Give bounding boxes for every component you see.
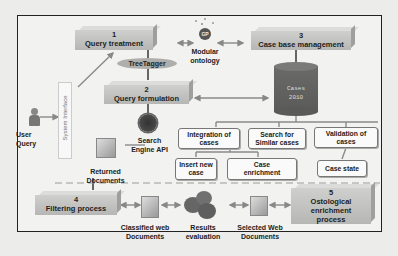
- step-4-filtering-process: 4 Filtering process: [35, 195, 117, 215]
- search-similar-cases-box: Search forSimilar cases: [248, 128, 306, 149]
- step-number: 5: [291, 188, 371, 197]
- selected-documents-icon: [250, 196, 268, 216]
- results-line1: Results: [178, 223, 228, 232]
- user-line1: User: [16, 130, 46, 139]
- step5-line2: enrichment: [291, 206, 371, 215]
- user-query-label: User Query: [16, 130, 46, 148]
- selected-line2: Documents: [230, 232, 290, 241]
- search-line2: Engine API: [122, 145, 177, 154]
- step-5-ontological-enrichment: 5 Ostological enrichment process: [291, 188, 371, 224]
- returned-documents-icon: [96, 138, 116, 158]
- search-engine-gear-icon: [139, 114, 157, 132]
- user-icon: [29, 108, 39, 126]
- ontology-line1: Modular: [180, 47, 230, 56]
- ontology-badge: GP: [199, 28, 211, 40]
- step-label: Filtering process: [46, 204, 106, 213]
- classified-documents-label: Classified web Documents: [115, 223, 175, 241]
- enrichment-line2: enrichment: [244, 169, 281, 177]
- results-evaluation-label: Results evaluation: [178, 223, 228, 241]
- validation-line1: Validation of: [326, 130, 366, 138]
- returned-line2: Documents: [78, 176, 133, 185]
- ontology-icon: GP: [192, 18, 218, 42]
- user-line2: Query: [16, 139, 46, 148]
- step-number: 1: [75, 30, 153, 39]
- ontology-line2: ontology: [180, 56, 230, 65]
- insert-line2: case: [179, 169, 213, 177]
- step-3-case-base-management: 3 Case base management: [251, 31, 351, 50]
- case-enrichment-box: Caseenrichment: [227, 158, 297, 180]
- treetagger-ellipse: TreeTagger: [117, 58, 177, 69]
- system-interface-bar: System Interface: [58, 82, 72, 159]
- system-interface-label: System Interface: [62, 82, 68, 154]
- db-line1: Cases: [274, 84, 318, 93]
- integration-line2: cases: [187, 139, 230, 147]
- step5-line3: process: [291, 215, 371, 224]
- returned-documents-label: Returned Documents: [78, 167, 133, 185]
- search-engine-label: Search Engine API: [122, 136, 177, 154]
- step-1-query-treatment: 1 Query treatment: [75, 30, 153, 50]
- step-number: 4: [35, 195, 117, 204]
- validation-line2: cases: [326, 138, 366, 146]
- integration-line1: Integration of: [187, 131, 230, 139]
- db-line2: 2010: [274, 93, 318, 102]
- selected-documents-label: Selected Web Documents: [230, 223, 290, 241]
- search-line1: Search: [122, 136, 177, 145]
- case-state-label: Case state: [325, 165, 359, 173]
- classified-documents-icon: [141, 196, 159, 218]
- step-number: 2: [104, 85, 189, 94]
- step-label: Query treatment: [85, 39, 143, 48]
- enrichment-line1: Case: [244, 161, 281, 169]
- step5-line1: Ostological: [291, 197, 371, 206]
- insert-line1: Insert new: [179, 161, 213, 169]
- returned-line1: Returned: [78, 167, 133, 176]
- results-line2: evaluation: [178, 232, 228, 241]
- results-evaluation-icon: [184, 191, 224, 219]
- search-cases-line1: Search for: [255, 131, 298, 139]
- modular-ontology-label: Modular ontology: [180, 47, 230, 65]
- classified-line1: Classified web: [115, 223, 175, 232]
- step-2-query-formulation: 2 Query formulation: [104, 85, 189, 104]
- case-state-box: Case state: [317, 160, 367, 177]
- validation-of-cases-box: Validation ofcases: [314, 127, 378, 148]
- selected-line1: Selected Web: [230, 223, 290, 232]
- classified-line2: Documents: [115, 232, 175, 241]
- step-label: Query formulation: [114, 94, 179, 103]
- integration-of-cases-box: Integration ofcases: [178, 128, 240, 149]
- insert-new-case-box: Insert newcase: [175, 158, 217, 180]
- search-cases-line2: Similar cases: [255, 139, 298, 147]
- cases-database-icon: Cases 2010: [274, 62, 318, 116]
- step-number: 3: [251, 31, 351, 40]
- step-label: Case base management: [258, 40, 343, 49]
